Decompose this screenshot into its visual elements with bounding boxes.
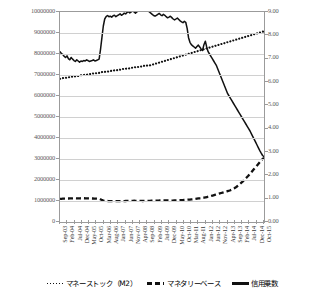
x-tick-mark — [66, 220, 67, 224]
y-tick-label-left: 3000000 — [0, 155, 55, 161]
x-tick-label: Dec-09 — [171, 226, 177, 243]
legend-label: マネタリーベース — [167, 279, 221, 288]
x-tick-mark — [190, 220, 191, 224]
y-tick-label-right: 1.00 — [268, 194, 320, 200]
x-tick-label: Oct-05 — [98, 226, 104, 242]
gridline — [60, 180, 264, 181]
x-tick-mark — [88, 220, 89, 224]
chart-legend: マネーストック（M2）マネタリーベース信用乗数 — [0, 279, 324, 288]
gridline — [60, 75, 264, 76]
gridline — [60, 96, 264, 97]
x-tick-mark — [183, 220, 184, 224]
y-tick-label-right: 5.00 — [268, 101, 320, 107]
legend-swatch-dashed-icon — [147, 282, 164, 285]
legend-entry[interactable]: マネーストック（M2） — [46, 279, 136, 288]
gridline — [60, 54, 264, 55]
x-tick-mark — [103, 220, 104, 224]
y-tick-label-right: 2.00 — [268, 171, 320, 177]
y-tick-mark-right — [265, 128, 268, 129]
x-tick-mark — [248, 220, 249, 224]
y-tick-label-left: 4000000 — [0, 134, 55, 140]
x-axis-labels: Sep-03Feb-04Jul-04Dec-04May-05Oct-05Mar-… — [59, 224, 265, 268]
y-tick-label-left: 5000000 — [0, 113, 55, 119]
gridline — [60, 117, 264, 118]
y-tick-label-left: 10000000 — [0, 8, 55, 14]
y-tick-label-right: 7.00 — [268, 54, 320, 60]
x-tick-label: Jul-14 — [251, 226, 257, 241]
x-tick-mark — [146, 220, 147, 224]
x-tick-label: Apr-13 — [230, 226, 236, 243]
x-tick-label: Nov-12 — [222, 226, 228, 244]
x-tick-mark — [263, 220, 264, 224]
legend-label: 信用乗数 — [251, 279, 278, 288]
x-tick-mark — [176, 220, 177, 224]
y-tick-mark-right — [265, 151, 268, 152]
x-tick-label: Aug-11 — [200, 226, 206, 244]
x-tick-label: Feb-04 — [69, 226, 75, 243]
x-tick-mark — [234, 220, 235, 224]
x-tick-label: Jan-07 — [120, 226, 126, 242]
x-tick-mark — [81, 220, 82, 224]
y-tick-mark-right — [265, 11, 268, 12]
x-tick-mark — [59, 220, 60, 224]
y-tick-label-right: 6.00 — [268, 78, 320, 84]
gridline — [60, 201, 264, 202]
y-tick-label-left: 6000000 — [0, 92, 55, 98]
x-tick-mark — [219, 220, 220, 224]
legend-swatch-solid-icon — [232, 282, 249, 285]
y-tick-label-left: 7000000 — [0, 71, 55, 77]
legend-entry[interactable]: マネタリーベース — [147, 279, 220, 288]
x-tick-mark — [161, 220, 162, 224]
y-tick-label-left: 2000000 — [0, 176, 55, 182]
x-tick-label: Sep-08 — [149, 226, 155, 243]
y-tick-label-right: 8.00 — [268, 31, 320, 37]
y-tick-label-left: 0 — [0, 218, 55, 224]
y-tick-mark-right — [265, 198, 268, 199]
y-tick-label-right: 4.00 — [268, 124, 320, 130]
x-tick-mark — [132, 220, 133, 224]
x-tick-mark — [125, 220, 126, 224]
x-tick-mark — [227, 220, 228, 224]
x-tick-mark — [256, 220, 257, 224]
x-tick-label: Jun-07 — [128, 226, 134, 242]
x-tick-label: May-10 — [179, 226, 185, 245]
x-tick-mark — [168, 220, 169, 224]
x-tick-mark — [95, 220, 96, 224]
x-tick-mark — [241, 220, 242, 224]
series-line-money-stock — [60, 31, 264, 78]
y-tick-mark-right — [265, 104, 268, 105]
x-tick-mark — [117, 220, 118, 224]
x-tick-mark — [154, 220, 155, 224]
gridline — [60, 33, 264, 34]
legend-entry[interactable]: 信用乗数 — [232, 279, 278, 288]
x-tick-mark — [74, 220, 75, 224]
y-tick-label-left: 1000000 — [0, 197, 55, 203]
x-tick-mark — [197, 220, 198, 224]
y-tick-label-left: 9000000 — [0, 29, 55, 35]
y-tick-label-right: 9.00 — [268, 8, 320, 14]
x-tick-mark — [110, 220, 111, 224]
y-tick-mark-right — [265, 58, 268, 59]
gridline — [60, 138, 264, 139]
y-tick-mark-right — [265, 174, 268, 175]
y-tick-mark-right — [265, 81, 268, 82]
y-tick-label-right: 0.00 — [268, 218, 320, 224]
x-tick-label: Jul-04 — [77, 226, 83, 241]
chart-root: 0100000020000003000000400000050000006000… — [0, 0, 324, 291]
y-tick-label-left: 8000000 — [0, 50, 55, 56]
gridline — [60, 159, 264, 160]
legend-label: マネーストック（M2） — [66, 279, 137, 288]
plot-area — [59, 11, 265, 223]
x-tick-label: Oct-15 — [266, 226, 272, 242]
y-tick-mark-right — [265, 221, 268, 222]
y-tick-label-right: 3.00 — [268, 148, 320, 154]
x-tick-mark — [212, 220, 213, 224]
x-tick-mark — [139, 220, 140, 224]
x-tick-mark — [205, 220, 206, 224]
y-tick-mark-right — [265, 34, 268, 35]
legend-swatch-dotted-icon — [46, 282, 63, 285]
